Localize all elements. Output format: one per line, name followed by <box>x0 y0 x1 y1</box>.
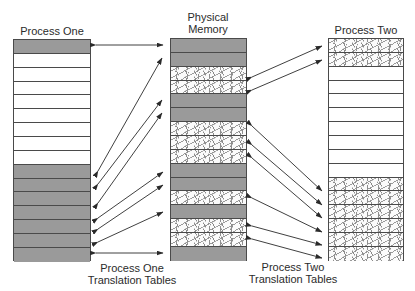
p2-map-arrow <box>252 145 322 205</box>
p1-map-arrow <box>98 113 162 203</box>
translation-arrows <box>0 0 415 291</box>
p2-map-arrow <box>252 198 322 232</box>
p1-map-arrow <box>98 58 162 171</box>
p1-map-arrow <box>98 185 163 229</box>
p2-map-arrow <box>252 126 322 191</box>
p2-tables-line1: Process Two <box>245 261 341 273</box>
p2-map-arrow <box>252 60 322 90</box>
process-one-translation-tables-label: Process One Translation Tables <box>84 262 180 286</box>
p1-map-arrow <box>98 212 163 242</box>
p2-tables-line2: Translation Tables <box>245 273 341 285</box>
p2-map-arrow <box>252 158 322 218</box>
p1-tables-line1: Process One <box>84 262 180 274</box>
p1-map-arrow <box>98 172 163 218</box>
p1-map-arrow <box>98 100 162 184</box>
p2-map-arrow <box>252 46 322 77</box>
process-two-translation-tables-label: Process Two Translation Tables <box>245 261 341 285</box>
p1-tables-line2: Translation Tables <box>84 274 180 286</box>
